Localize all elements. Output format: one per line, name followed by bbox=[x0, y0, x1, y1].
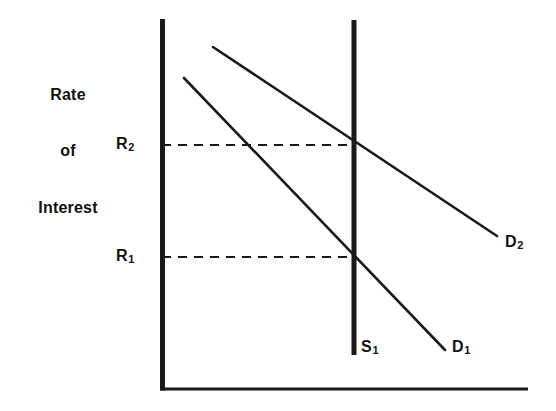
y-axis-title-line-2: of bbox=[20, 142, 116, 161]
curve-label-d1-subscript: 1 bbox=[464, 344, 470, 356]
tick-label-r2: R2 bbox=[116, 135, 135, 154]
curve-label-d1-base: D bbox=[452, 338, 464, 355]
y-axis-title-line-3: Interest bbox=[20, 199, 116, 218]
curve-label-d2-subscript: 2 bbox=[517, 239, 523, 251]
tick-label-r2-base: R bbox=[116, 135, 128, 152]
curve-label-s1-base: S bbox=[361, 338, 372, 355]
curve-label-s1: S1 bbox=[361, 338, 379, 357]
curve-label-d2-base: D bbox=[505, 233, 517, 250]
tick-label-r1-subscript: 1 bbox=[128, 253, 134, 265]
tick-label-r1: R1 bbox=[116, 247, 135, 266]
curve-label-s1-subscript: 1 bbox=[372, 344, 378, 356]
demand-curve-d1 bbox=[184, 78, 445, 350]
y-axis-title: Rate of Interest bbox=[20, 48, 116, 256]
interest-rate-diagram: Rate of Interest R2 R1 S1 D1 D2 bbox=[0, 0, 556, 411]
curve-label-d2: D2 bbox=[505, 233, 524, 252]
tick-label-r1-base: R bbox=[116, 247, 128, 264]
curve-label-d1: D1 bbox=[452, 338, 471, 357]
y-axis-title-line-1: Rate bbox=[20, 86, 116, 105]
tick-label-r2-subscript: 2 bbox=[128, 141, 134, 153]
